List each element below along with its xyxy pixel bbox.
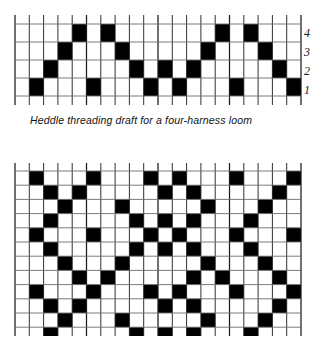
drawdown-grid-canvas bbox=[14, 162, 302, 336]
grid-cell-filled bbox=[172, 171, 186, 185]
grid-cell-filled bbox=[129, 214, 143, 228]
weaving-draft-page: 4 3 2 1 Heddle threading draft for a fou… bbox=[0, 0, 327, 346]
grid-cell-filled bbox=[44, 60, 58, 78]
grid-cell-filled bbox=[244, 214, 258, 228]
grid-cell-filled bbox=[87, 78, 101, 96]
grid-cell-filled bbox=[201, 199, 215, 213]
fabric-drawdown bbox=[14, 162, 302, 336]
grid-cell-filled bbox=[158, 214, 172, 228]
grid-cell-filled bbox=[44, 299, 58, 313]
grid-cell-filled bbox=[258, 256, 272, 270]
grid-cell-filled bbox=[101, 24, 115, 42]
grid-cell-filled bbox=[44, 185, 58, 199]
grid-cell-filled bbox=[129, 242, 143, 256]
grid-cell-filled bbox=[215, 24, 229, 42]
grid-cell-filled bbox=[244, 242, 258, 256]
grid-cell-filled bbox=[287, 78, 301, 96]
grid-cell-filled bbox=[201, 256, 215, 270]
grid-cell-filled bbox=[258, 42, 272, 60]
harness-label-2: 2 bbox=[304, 62, 320, 80]
grid-cell-filled bbox=[58, 42, 72, 60]
grid-cell-filled bbox=[258, 199, 272, 213]
grid-cell-filled bbox=[87, 285, 101, 299]
grid-cell-filled bbox=[144, 78, 158, 96]
grid-cell-filled bbox=[29, 78, 43, 96]
grid-cell-filled bbox=[201, 313, 215, 327]
grid-cell-filled bbox=[244, 24, 258, 42]
drawdown-grid bbox=[14, 162, 302, 336]
grid-cell-filled bbox=[230, 228, 244, 242]
grid-cell-filled bbox=[87, 171, 101, 185]
heddle-threading-draft bbox=[14, 14, 302, 106]
grid-cell-filled bbox=[158, 185, 172, 199]
grid-cell-filled bbox=[187, 242, 201, 256]
grid-cell-filled bbox=[187, 327, 201, 336]
grid-cell-filled bbox=[187, 299, 201, 313]
grid-cell-filled bbox=[72, 299, 86, 313]
harness-label-3: 3 bbox=[304, 43, 320, 61]
grid-cell-filled bbox=[129, 327, 143, 336]
grid-cell-filled bbox=[58, 256, 72, 270]
grid-cell-filled bbox=[215, 270, 229, 284]
grid-cell-filled bbox=[272, 185, 286, 199]
grid-cell-filled bbox=[287, 171, 301, 185]
grid-cell-filled bbox=[158, 242, 172, 256]
threading-grid-canvas bbox=[14, 14, 302, 106]
grid-cell-filled bbox=[58, 313, 72, 327]
grid-cell-filled bbox=[158, 60, 172, 78]
grid-cell-filled bbox=[144, 285, 158, 299]
grid-cell-filled bbox=[115, 313, 129, 327]
grid-cell-filled bbox=[101, 270, 115, 284]
grid-cell-filled bbox=[44, 327, 58, 336]
grid-cell-filled bbox=[230, 171, 244, 185]
grid-cell-filled bbox=[230, 285, 244, 299]
grid-cell-filled bbox=[230, 78, 244, 96]
grid-cell-filled bbox=[187, 185, 201, 199]
grid-cell-filled bbox=[115, 256, 129, 270]
grid-cell-filled bbox=[158, 299, 172, 313]
grid-cell-filled bbox=[172, 78, 186, 96]
grid-cell-filled bbox=[115, 199, 129, 213]
grid-cell-filled bbox=[129, 60, 143, 78]
grid-cell-filled bbox=[272, 299, 286, 313]
grid-cell-filled bbox=[287, 285, 301, 299]
grid-cell-filled bbox=[187, 214, 201, 228]
grid-cell-filled bbox=[158, 327, 172, 336]
grid-cell-filled bbox=[187, 270, 201, 284]
grid-cell-filled bbox=[29, 228, 43, 242]
grid-cell-filled bbox=[87, 228, 101, 242]
grid-cell-filled bbox=[272, 270, 286, 284]
grid-cell-filled bbox=[72, 185, 86, 199]
grid-cell-filled bbox=[72, 270, 86, 284]
grid-cell-filled bbox=[172, 285, 186, 299]
grid-cell-filled bbox=[144, 171, 158, 185]
grid-cell-filled bbox=[115, 42, 129, 60]
grid-cell-filled bbox=[29, 171, 43, 185]
grid-cell-filled bbox=[44, 242, 58, 256]
figure-caption: Heddle threading draft for a four-harnes… bbox=[30, 114, 252, 126]
harness-label-4: 4 bbox=[304, 24, 320, 42]
grid-cell-filled bbox=[172, 228, 186, 242]
grid-cell-filled bbox=[29, 285, 43, 299]
grid-cell-filled bbox=[72, 24, 86, 42]
grid-cell-filled bbox=[272, 60, 286, 78]
grid-cell-filled bbox=[44, 214, 58, 228]
harness-label-column: 4 3 2 1 bbox=[300, 24, 322, 102]
grid-cell-filled bbox=[201, 42, 215, 60]
grid-cell-filled bbox=[144, 228, 158, 242]
grid-cell-filled bbox=[258, 313, 272, 327]
harness-label-1: 1 bbox=[304, 81, 320, 99]
threading-grid bbox=[14, 14, 302, 106]
grid-cell-filled bbox=[287, 228, 301, 242]
grid-cell-filled bbox=[244, 327, 258, 336]
grid-cell-filled bbox=[187, 60, 201, 78]
grid-cell-filled bbox=[58, 199, 72, 213]
